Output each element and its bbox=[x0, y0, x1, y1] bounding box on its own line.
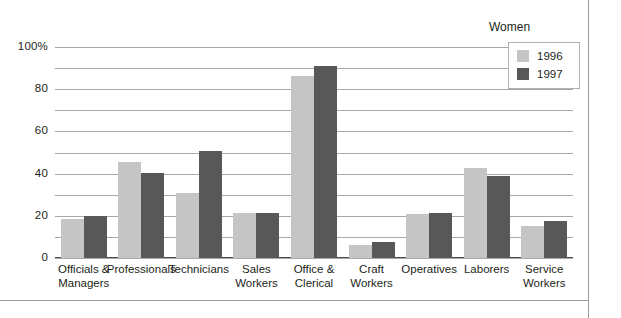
bar-group bbox=[233, 47, 279, 258]
bar-group bbox=[176, 47, 222, 258]
bar-1996[interactable] bbox=[406, 214, 429, 258]
bar-group bbox=[118, 47, 164, 258]
x-axis-labels: Officials &ManagersProfessionalsTechnici… bbox=[55, 262, 573, 300]
legend-swatch-1996 bbox=[517, 50, 529, 62]
legend-swatch-1997 bbox=[517, 68, 529, 80]
y-tick-label-60: 60 bbox=[4, 125, 48, 137]
bar-1996[interactable] bbox=[176, 193, 199, 258]
bar-group bbox=[406, 47, 452, 258]
bar-1997[interactable] bbox=[256, 213, 279, 258]
y-tick-label-40: 40 bbox=[4, 168, 48, 180]
page-border-bottom bbox=[0, 300, 588, 301]
bar-1997[interactable] bbox=[314, 66, 337, 258]
bar-group bbox=[291, 47, 337, 258]
bar-1996[interactable] bbox=[61, 219, 84, 258]
bar-1997[interactable] bbox=[84, 216, 107, 258]
bar-group bbox=[464, 47, 510, 258]
bar-1996[interactable] bbox=[233, 213, 256, 258]
bar-1997[interactable] bbox=[141, 173, 164, 258]
legend-label-1997: 1997 bbox=[537, 67, 563, 81]
bar-1997[interactable] bbox=[199, 151, 222, 258]
bar-1997[interactable] bbox=[544, 221, 567, 258]
y-tick-label-80: 80 bbox=[4, 83, 48, 95]
legend-title: Women bbox=[489, 21, 530, 33]
bar-1996[interactable] bbox=[291, 76, 314, 259]
chart-page: 100%806040200 Officials &ManagersProfess… bbox=[0, 0, 621, 318]
y-tick-label-100: 100% bbox=[4, 41, 48, 53]
bar-1996[interactable] bbox=[521, 226, 544, 258]
bar-1997[interactable] bbox=[372, 242, 395, 258]
bar-1996[interactable] bbox=[118, 162, 141, 258]
bar-groups bbox=[55, 47, 573, 258]
bar-1996[interactable] bbox=[464, 168, 487, 258]
x-axis-category-label: ServiceWorkers bbox=[503, 262, 585, 290]
legend-label-1996: 1996 bbox=[537, 49, 563, 63]
y-tick-label-20: 20 bbox=[4, 210, 48, 222]
bar-group bbox=[61, 47, 107, 258]
bar-1997[interactable] bbox=[429, 213, 452, 258]
bar-group bbox=[349, 47, 395, 258]
y-tick-label-0: 0 bbox=[4, 252, 48, 264]
grouped-bar-chart: 100%806040200 Officials &ManagersProfess… bbox=[0, 0, 588, 300]
bar-1996[interactable] bbox=[349, 245, 372, 258]
bar-1997[interactable] bbox=[487, 176, 510, 258]
gridline-0 bbox=[55, 258, 573, 259]
page-border-right bbox=[588, 0, 589, 318]
legend-box: 19961997 bbox=[508, 42, 580, 89]
y-axis-labels: 100%806040200 bbox=[0, 47, 48, 258]
